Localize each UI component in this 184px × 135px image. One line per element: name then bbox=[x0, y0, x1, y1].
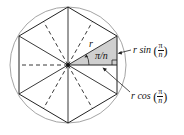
sin-label: r sin (πn) bbox=[133, 42, 168, 59]
radius-label: r bbox=[89, 39, 93, 49]
center-point bbox=[66, 63, 70, 67]
sin-arrowhead bbox=[118, 51, 123, 55]
hexagon-circle-diagram bbox=[0, 0, 184, 135]
cos-label: r cos (πn) bbox=[131, 88, 167, 105]
cos-close-paren: ) bbox=[163, 90, 167, 104]
angle-label: π/n bbox=[95, 51, 108, 61]
sin-close-paren: ) bbox=[164, 44, 168, 58]
cos-prefix: r cos bbox=[131, 90, 151, 101]
sin-prefix: r sin bbox=[133, 44, 151, 55]
